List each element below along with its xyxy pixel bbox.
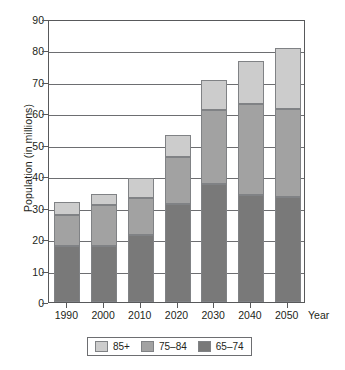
bar-segment-85+-2010	[128, 178, 154, 198]
bar-2000	[91, 194, 117, 302]
bar-segment-75-84-2030	[201, 110, 227, 185]
bar-segment-65-74-2010	[128, 235, 154, 302]
gridline	[49, 52, 304, 53]
bar-segment-65-74-2030	[201, 184, 227, 302]
bar-segment-85+-1990	[54, 202, 80, 215]
x-axis-tick-mark	[287, 303, 288, 308]
y-axis-tick-label: 60	[4, 109, 44, 119]
bar-segment-75-84-2020	[165, 157, 191, 203]
gridline	[49, 115, 304, 116]
x-axis-tick-mark	[66, 303, 67, 308]
y-axis-tick-label: 30	[4, 204, 44, 214]
bar-segment-85+-2040	[238, 61, 264, 105]
bar-segment-75-84-1990	[54, 215, 80, 246]
gridline	[49, 84, 304, 85]
y-axis-tick-label: 10	[4, 267, 44, 277]
stacked-bar-chart-figure: Population (in millions) 010203040506070…	[0, 0, 345, 370]
chart-legend: 85+75–8465–74	[87, 337, 252, 356]
bar-segment-65-74-2000	[91, 246, 117, 302]
y-axis-tick-label: 50	[4, 141, 44, 151]
legend-label: 85+	[113, 341, 130, 352]
legend-swatch-icon	[141, 341, 154, 352]
legend-item: 85+	[95, 341, 130, 352]
y-axis-tick-label: 90	[4, 15, 44, 25]
bar-2050	[275, 48, 301, 302]
bar-segment-75-84-2000	[91, 205, 117, 246]
bar-segment-85+-2050	[275, 48, 301, 109]
bar-segment-75-84-2050	[275, 109, 301, 197]
bar-segment-85+-2020	[165, 135, 191, 157]
y-axis-tick-label: 80	[4, 46, 44, 56]
y-axis-tick-mark	[42, 303, 48, 304]
bar-segment-75-84-2040	[238, 104, 264, 195]
bar-1990	[54, 202, 80, 302]
bar-segment-85+-2030	[201, 80, 227, 109]
bar-segment-65-74-2050	[275, 197, 301, 302]
bar-segment-75-84-2010	[128, 198, 154, 235]
x-axis-tick-mark	[177, 303, 178, 308]
y-axis-tick-label: 40	[4, 172, 44, 182]
x-axis-tick-mark	[140, 303, 141, 308]
y-axis-tick-label: 0	[4, 298, 44, 308]
legend-swatch-icon	[95, 341, 108, 352]
legend-label: 65–74	[216, 341, 244, 352]
bar-2030	[201, 80, 227, 302]
bar-2040	[238, 61, 264, 302]
plot-area	[48, 20, 305, 303]
legend-label: 75–84	[159, 341, 187, 352]
bar-segment-65-74-1990	[54, 246, 80, 302]
x-axis-title: Year	[308, 309, 329, 321]
bar-segment-65-74-2040	[238, 195, 264, 302]
y-axis-tick-label: 70	[4, 78, 44, 88]
bar-segment-65-74-2020	[165, 204, 191, 302]
y-axis-tick-label: 20	[4, 235, 44, 245]
bar-segment-85+-2000	[91, 194, 117, 205]
bar-2020	[165, 135, 191, 302]
x-axis-tick-mark	[213, 303, 214, 308]
x-axis-tick-label: 2050	[262, 309, 312, 321]
bar-2010	[128, 178, 154, 302]
legend-item: 65–74	[198, 341, 244, 352]
legend-item: 75–84	[141, 341, 187, 352]
x-axis-tick-mark	[103, 303, 104, 308]
legend-swatch-icon	[198, 341, 211, 352]
x-axis-tick-mark	[250, 303, 251, 308]
